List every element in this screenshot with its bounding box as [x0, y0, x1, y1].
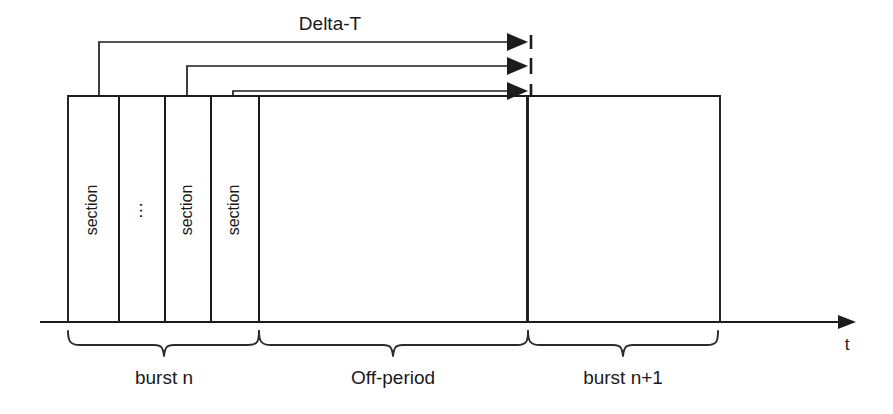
section-label-2: section	[178, 185, 195, 236]
time-axis-label: t	[845, 335, 850, 354]
brace-off-period-label: Off-period	[351, 367, 435, 388]
brace-burst-n	[68, 331, 259, 356]
brace-off-period	[259, 331, 528, 356]
timing-diagram-svg: section ⋯ section section Delta-T t burs…	[0, 0, 893, 414]
section-label-3: section	[225, 185, 242, 236]
time-axis-arrowhead	[838, 315, 856, 329]
delta-t-arrow-1-head	[507, 33, 528, 51]
delta-t-arrow-3	[233, 82, 528, 100]
timing-diagram-canvas: section ⋯ section section Delta-T t burs…	[0, 0, 893, 414]
delta-t-arrow-2-head	[507, 57, 528, 75]
delta-t-label: Delta-T	[299, 13, 362, 34]
off-period-box	[259, 96, 527, 322]
delta-t-arrow-1	[99, 33, 528, 96]
section-ellipsis-label: ⋯	[131, 201, 150, 219]
delta-t-arrow-3-head	[507, 82, 528, 100]
brace-burst-n-label: burst n	[135, 367, 193, 388]
burst-n-plus-1-box	[528, 96, 720, 322]
brace-burst-n-plus-1	[528, 331, 718, 356]
section-labels-group: section ⋯ section section	[83, 185, 242, 236]
section-label-1: section	[83, 185, 100, 236]
delta-t-arrow-1-path	[99, 42, 519, 96]
time-axis-group	[40, 315, 856, 329]
brace-off-period-group: Off-period	[259, 331, 528, 388]
brace-burst-n-plus-1-label: burst n+1	[583, 367, 663, 388]
brace-burst-n-group: burst n	[68, 331, 259, 388]
brace-burst-n-plus-1-group: burst n+1	[528, 331, 718, 388]
